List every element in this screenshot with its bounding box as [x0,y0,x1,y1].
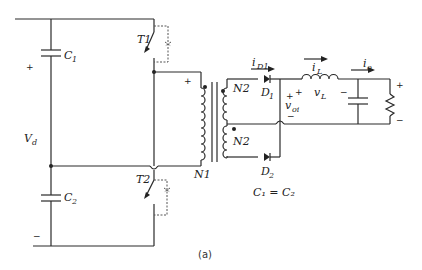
vd-minus: − [33,231,41,241]
output-filter [280,75,394,125]
half-bridge-converter-diagram: C 1 C 2 V d + − T1 T2 N1 + N2 N2 D 1 D 2… [0,0,422,270]
label-vl-sub: L [320,92,326,101]
input-capacitor-branch [15,19,154,246]
output-plus: + [396,80,404,90]
label-n1: N1 [193,168,211,181]
vl-plus: + [295,87,303,97]
primary-plus: + [184,76,192,86]
diode-d1 [264,75,280,83]
label-n2-bottom: N2 [232,135,250,148]
label-id1: i [252,56,256,69]
label-c1-sub: 1 [72,55,77,64]
equation-c1-c2: C₁ = C₂ [253,186,295,199]
label-n2-top: N2 [232,82,250,95]
label-io-sub: o [367,63,372,72]
figure-caption: (a) [198,249,212,260]
output-minus: − [396,115,404,125]
label-vl: v [314,86,321,99]
label-il-sub: L [316,67,322,76]
label-d1-sub: 1 [269,92,274,101]
label-t2: T2 [136,173,150,186]
label-io: i [363,57,367,70]
label-vd-sub: d [32,138,37,147]
label-id1-sub: D1 [256,62,269,71]
voi-minus: − [287,111,295,121]
label-c2-sub: 2 [71,197,77,206]
label-il: i [312,61,316,74]
label-t1: T1 [137,33,151,46]
vl-minus: − [340,87,348,97]
label-d2-sub: 2 [268,171,274,180]
transformer-core [212,82,217,162]
vd-plus: + [26,62,34,72]
